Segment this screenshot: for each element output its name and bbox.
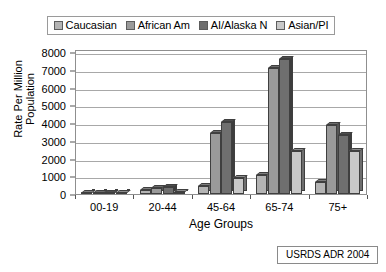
x-axis-tick-label: 20-44 <box>149 201 177 213</box>
legend-item-label: Asian/PI <box>288 20 328 31</box>
bar-front-face <box>315 182 326 194</box>
bar-front-face <box>163 187 174 194</box>
y-axis-tick-label: 4000 <box>42 119 66 130</box>
bar-front-face <box>221 122 232 194</box>
bar-group <box>81 51 127 194</box>
bar-group <box>140 51 186 194</box>
x-axis-tick-label: 65-74 <box>265 201 293 213</box>
y-axis-tick-label: 2000 <box>42 154 66 165</box>
chart-figure: CaucasianAfrican AmAI/Alaska NAsian/PI R… <box>0 0 386 272</box>
x-axis-tick-mark <box>192 195 193 199</box>
y-axis-tick-label: 8000 <box>42 48 66 59</box>
x-axis-tick-mark <box>309 195 310 199</box>
y-axis-tick-label: 3000 <box>42 136 66 147</box>
x-axis-tick-label: 45-64 <box>207 201 235 213</box>
legend-item: AI/Alaska N <box>199 20 267 31</box>
x-axis-title: Age Groups <box>75 218 367 231</box>
legend-swatch-icon <box>126 21 135 30</box>
y-axis-tick-label: 7000 <box>42 65 66 76</box>
x-axis-tick-label: 75+ <box>328 201 347 213</box>
x-axis-tick-mark <box>250 195 251 199</box>
legend-item: African Am <box>126 20 190 31</box>
bar-front-face <box>140 190 151 194</box>
legend-swatch-icon <box>54 21 63 30</box>
legend-item-label: AI/Alaska N <box>211 20 267 31</box>
bar-group <box>198 51 244 194</box>
y-axis-tick-label: 6000 <box>42 83 66 94</box>
bar-front-face <box>151 188 162 194</box>
chart-legend: CaucasianAfrican AmAI/Alaska NAsian/PI <box>47 16 335 35</box>
bar-group <box>256 51 302 194</box>
legend-item-label: African Am <box>138 20 190 31</box>
legend-item: Asian/PI <box>276 20 328 31</box>
bar-side-face <box>360 148 363 191</box>
bar-front-face <box>174 192 185 194</box>
bar-front-face <box>198 186 209 194</box>
source-caption: USRDS ADR 2004 <box>277 246 378 264</box>
x-axis-tick-mark <box>75 195 76 199</box>
bar-front-face <box>326 125 337 194</box>
plot-area <box>75 50 367 195</box>
legend-item-label: Caucasian <box>66 20 117 31</box>
y-axis-tick-label: 1000 <box>42 172 66 183</box>
bar-front-face <box>291 151 302 194</box>
bar-top-face <box>116 190 131 193</box>
bar-top-face <box>174 189 189 192</box>
bar-front-face <box>268 68 279 194</box>
bar-front-face <box>256 175 267 194</box>
bar-front-face <box>233 178 244 194</box>
y-axis-ticks: 010002000300040005000600070008000 <box>0 50 75 195</box>
bar-group <box>315 51 361 194</box>
bar-groups <box>76 51 366 194</box>
x-axis-tick-mark <box>133 195 134 199</box>
bar-side-face <box>302 148 305 191</box>
bar-front-face <box>338 135 349 194</box>
legend-item: Caucasian <box>54 20 117 31</box>
legend-swatch-icon <box>276 21 285 30</box>
y-axis-tick-label: 0 <box>60 190 66 201</box>
x-axis-tick-label: 00-19 <box>90 201 118 213</box>
bar-front-face <box>210 133 221 194</box>
bar-front-face <box>279 59 290 194</box>
x-axis-ticks: 00-1920-4445-6465-7475+ <box>75 195 367 219</box>
bar-front-face <box>349 151 360 194</box>
legend-swatch-icon <box>199 21 208 30</box>
y-axis-tick-label: 5000 <box>42 101 66 112</box>
x-axis-tick-mark <box>367 195 368 199</box>
